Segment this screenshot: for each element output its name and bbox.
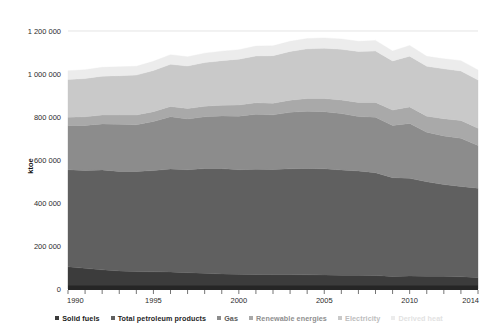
- y-axis-tick-label: 600 000: [34, 156, 61, 165]
- stacked-area-chart: 0200 000400 000600 000800 0001 000 0001 …: [0, 0, 498, 332]
- legend-item-label: Total petroleum products: [118, 314, 207, 323]
- y-axis-tick-label: 1 200 000: [28, 27, 61, 36]
- y-axis-tick-label: 200 000: [34, 242, 61, 251]
- legend-item-label: Electricity: [345, 314, 380, 323]
- y-axis-tick-label: 1 000 000: [28, 70, 61, 79]
- x-axis-tick-label: 1995: [145, 296, 162, 305]
- area-series: [68, 168, 478, 277]
- x-axis-tick-labels: 199019952000200520102014: [67, 296, 479, 305]
- legend-swatch-icon: [217, 316, 221, 320]
- legend-item-label: Derived heat: [398, 314, 442, 323]
- legend-swatch-icon: [338, 316, 342, 320]
- legend-item-label: Gas: [224, 314, 238, 323]
- y-axis-tick-label: 400 000: [34, 199, 61, 208]
- y-axis-title: ktoe: [26, 158, 35, 173]
- chart-legend: Solid fuelsTotal petroleum productsGasRe…: [0, 310, 498, 326]
- y-axis-tick-label: 800 000: [34, 113, 61, 122]
- legend-swatch-icon: [55, 316, 59, 320]
- legend-item[interactable]: Solid fuels: [55, 314, 99, 323]
- x-axis-tick-label: 2000: [230, 296, 247, 305]
- x-axis-bar: [68, 286, 478, 291]
- chart-plot-area: 0200 000400 000600 000800 0001 000 0001 …: [0, 0, 498, 332]
- legend-item[interactable]: Total petroleum products: [111, 314, 207, 323]
- y-axis-tick-label: 0: [57, 285, 61, 294]
- legend-swatch-icon: [391, 316, 395, 320]
- x-axis-tick-label: 2010: [401, 296, 418, 305]
- legend-item-label: Solid fuels: [62, 314, 99, 323]
- x-axis-tick-label: 2005: [316, 296, 333, 305]
- stacked-series-group: [68, 38, 478, 289]
- legend-item[interactable]: Derived heat: [391, 314, 442, 323]
- legend-swatch-icon: [111, 316, 115, 320]
- x-axis-tick-label: 1990: [67, 296, 84, 305]
- legend-item[interactable]: Renewable energies: [249, 314, 327, 323]
- legend-item-label: Renewable energies: [256, 314, 327, 323]
- legend-swatch-icon: [249, 316, 253, 320]
- legend-item[interactable]: Gas: [217, 314, 238, 323]
- x-axis-tick-label: 2014: [462, 296, 479, 305]
- x-axis-tickmarks: [68, 290, 478, 294]
- legend-item[interactable]: Electricity: [338, 314, 380, 323]
